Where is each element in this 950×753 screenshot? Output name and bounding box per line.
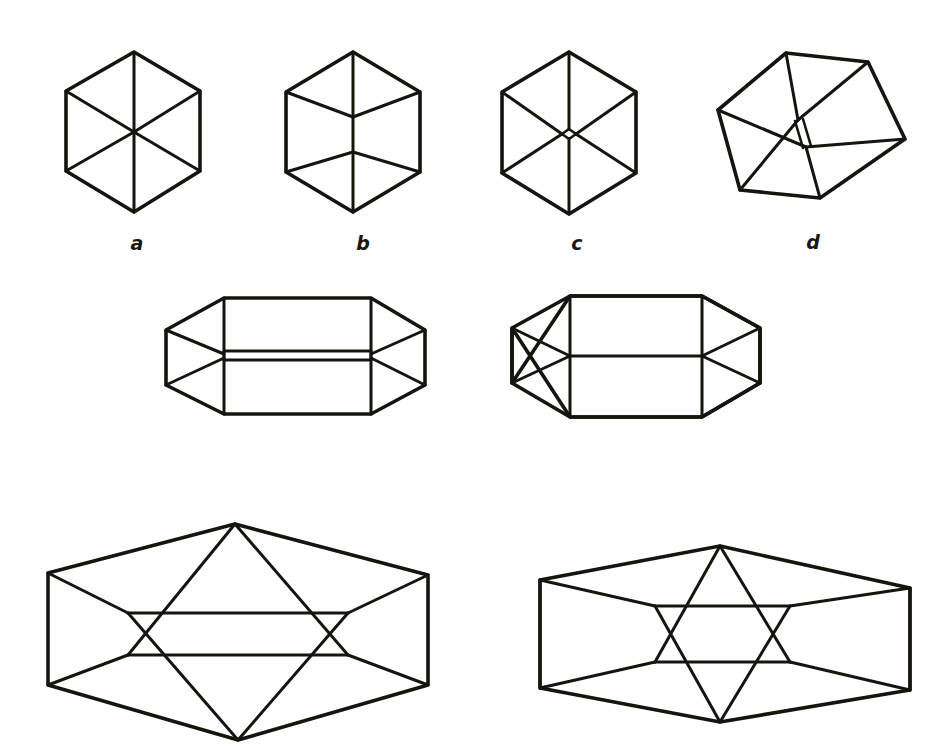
panel-h-star-up-right (720, 606, 790, 722)
panel-c-centre-hole (562, 129, 576, 139)
panel-g-triangle-up-left (128, 613, 238, 740)
panel-c-radius-lower-left (502, 134, 562, 173)
panel-label-c: c (571, 232, 582, 254)
panel-f-diag-upper-right (702, 328, 760, 356)
panel-d-arm-upper-right (798, 62, 868, 120)
panel-a-figure (66, 52, 200, 212)
panel-b-arm-lower-left (286, 152, 353, 172)
panel-c-radius-lower-right (576, 134, 636, 173)
panel-b-arm-lower-right (353, 152, 420, 172)
panel-g-hexagon-outline (48, 524, 428, 740)
panel-h-connector-upper-left (540, 580, 655, 606)
panel-g-figure (48, 524, 428, 740)
panel-c-radius-upper-right (576, 92, 636, 134)
panel-a-radius-upper-right (134, 91, 200, 132)
panel-f-figure (512, 296, 760, 417)
panel-d-hexagon-outline (718, 53, 905, 198)
panel-e-diag-upper-right (371, 330, 425, 354)
panel-d-arm-bottom (806, 147, 820, 198)
panel-g-connector-upper-right (348, 575, 428, 613)
panel-h-star-up-left (655, 606, 720, 722)
panel-h-connector-upper-right (790, 588, 910, 606)
figure-plate: a b c d (0, 0, 950, 753)
panel-b-arm-upper-right (353, 92, 420, 117)
panel-h-star-down-right (720, 546, 790, 662)
panel-e-hexagon-outline (166, 298, 425, 414)
panel-label-a: a (131, 232, 144, 254)
line-drawing-canvas (0, 0, 950, 753)
panel-a-radius-upper-left (66, 91, 134, 132)
panel-d-slot-edge-right (803, 119, 811, 146)
panel-h-figure (540, 546, 910, 722)
panel-e-diag-lower-right (371, 358, 425, 385)
panel-label-d: d (806, 231, 820, 253)
panel-d-figure (718, 53, 905, 198)
panel-e-diag-upper-left (166, 330, 224, 354)
panel-e-figure (166, 298, 425, 414)
panel-b-figure (286, 52, 420, 212)
panel-d-arm-lower-right (806, 139, 905, 147)
panel-g-connector-lower-right (348, 655, 428, 685)
panel-a-radius-lower-right (134, 132, 200, 171)
panel-f-diag-lower-right (702, 356, 760, 383)
panel-g-connector-lower-left (48, 655, 128, 685)
panel-h-hexagon-outline (540, 546, 910, 722)
panel-h-connector-lower-right (790, 662, 910, 690)
panel-d-arm-top (786, 53, 798, 120)
panel-e-diag-lower-left (166, 358, 224, 385)
panel-c-figure (502, 52, 636, 214)
panel-g-triangle-down-left (128, 524, 235, 655)
panel-a-radius-lower-left (66, 132, 134, 171)
panel-g-triangle-up-right (238, 613, 348, 740)
panel-b-arm-upper-left (286, 92, 353, 117)
panel-g-triangle-down-right (235, 524, 348, 655)
panel-label-b: b (356, 232, 370, 254)
panel-c-radius-upper-left (502, 92, 562, 134)
panel-h-star-down-left (655, 546, 720, 662)
panel-g-connector-upper-left (48, 573, 128, 613)
panel-h-connector-lower-left (540, 662, 655, 688)
